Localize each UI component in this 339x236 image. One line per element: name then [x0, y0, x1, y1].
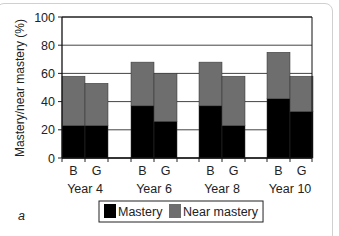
bar-segment-mastery [290, 111, 313, 158]
group-label: Year 8 [204, 182, 240, 196]
x-tick-label: G [229, 164, 239, 178]
bar-segment-mastery [62, 126, 85, 158]
x-tick-label: B [206, 164, 214, 178]
legend-label-mastery: Mastery [118, 205, 163, 219]
bar-segment-mastery [222, 126, 245, 158]
bar-segment-near-mastery [85, 83, 108, 125]
bar-segment-near-mastery [154, 73, 177, 121]
bar-segment-near-mastery [62, 76, 85, 125]
y-tick-label: 40 [41, 95, 55, 109]
bar-segment-near-mastery [131, 62, 154, 106]
bar-segment-mastery [199, 106, 222, 158]
group-label: Year 4 [67, 182, 103, 196]
bar-segment-near-mastery [290, 76, 313, 111]
bar-segment-mastery [85, 126, 108, 158]
x-tick-label: B [69, 164, 77, 178]
y-tick-label: 0 [48, 152, 55, 166]
legend-swatch-mastery [104, 204, 116, 218]
bar-segment-mastery [131, 106, 154, 158]
stacked-bar-chart: 020406080100BGBGBGBGYear 4Year 6Year 8Ye… [0, 0, 339, 236]
bar-segment-near-mastery [199, 62, 222, 106]
group-label: Year 6 [136, 182, 172, 196]
x-tick-label: B [274, 164, 282, 178]
y-tick-label: 80 [41, 39, 55, 53]
y-axis-label: Mastery/near mastery (%) [13, 19, 27, 157]
bar-segment-mastery [267, 99, 290, 158]
panel-label: a [18, 209, 25, 223]
x-tick-label: B [138, 164, 146, 178]
y-tick-label: 20 [41, 123, 55, 137]
x-tick-label: G [92, 164, 102, 178]
y-tick-label: 60 [41, 67, 55, 81]
x-tick-label: G [161, 164, 171, 178]
y-tick-label: 100 [34, 11, 55, 25]
bar-segment-near-mastery [222, 76, 245, 125]
legend-swatch-near-mastery [169, 204, 181, 218]
x-tick-label: G [297, 164, 307, 178]
bar-segment-mastery [154, 121, 177, 158]
bar-segment-near-mastery [267, 52, 290, 99]
group-label: Year 10 [269, 182, 312, 196]
legend-label-near-mastery: Near mastery [183, 205, 259, 219]
